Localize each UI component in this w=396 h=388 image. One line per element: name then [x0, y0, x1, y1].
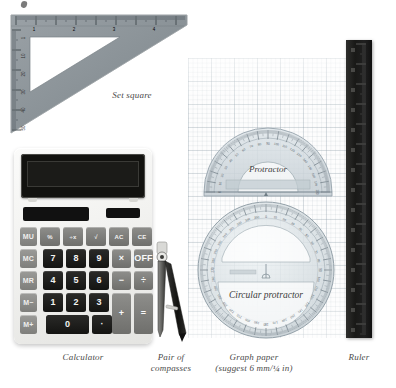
circular-protractor-degree-label: 0	[265, 215, 267, 219]
ruler-major-marker	[351, 48, 355, 52]
protractor-label: Protractor	[248, 164, 288, 174]
brand-badge	[106, 208, 140, 218]
calc-key-mu[interactable]: MU	[20, 227, 37, 246]
caption-graph-paper-line2: (suggest 6 mm/¼ in)	[215, 363, 292, 373]
keypad-row: M−123+=	[20, 293, 146, 312]
calc-key-[interactable]: ×	[112, 249, 131, 268]
calculator-display	[27, 161, 139, 187]
ruler-major-marker	[351, 148, 355, 152]
ruler-major-marker	[351, 128, 355, 132]
calc-key-7[interactable]: 7	[43, 249, 63, 268]
caption-set-square: Set square	[96, 90, 168, 101]
keypad-row: MU%÷x√ACCE	[20, 227, 146, 246]
protractor-semicircle: 0102030405060708090100110120130140150160…	[200, 122, 336, 198]
calc-key-8[interactable]: 8	[66, 249, 86, 268]
set-square-left-number: 10	[21, 53, 26, 59]
calc-key-9[interactable]: 9	[89, 249, 109, 268]
ruler-major-marker	[351, 68, 355, 72]
calculator-stand-right	[129, 198, 138, 202]
caption-calculator: Calculator	[43, 352, 123, 363]
ruler-major-marker	[351, 268, 355, 272]
ruler-major-marker	[351, 188, 355, 192]
solar-panel	[23, 207, 89, 221]
calculator-stand-left	[28, 198, 37, 202]
ruler-ticks	[346, 40, 372, 338]
calc-key-[interactable]: +	[112, 293, 131, 334]
calc-key-mc[interactable]: MC	[20, 249, 37, 268]
set-square-left-number: 40	[21, 107, 26, 113]
circular-protractor-degree-label: 90	[318, 268, 322, 272]
calc-key-[interactable]: √	[86, 227, 106, 246]
calc-key-2[interactable]: 2	[66, 293, 86, 312]
circular-protractor-label: Circular protractor	[229, 290, 303, 300]
ruler-major-marker	[351, 308, 355, 312]
calc-key-[interactable]: %	[40, 227, 60, 246]
calc-key-x[interactable]: ÷x	[63, 227, 83, 246]
calculator[interactable]: MU%÷x√ACCEMC789×OFFMR456−÷M−123+=M+0·	[14, 148, 152, 344]
calc-key-1[interactable]: 1	[43, 293, 63, 312]
plate-illustration-canvas: 1234 11020304050 Set square MU%÷x√ACCEMC…	[0, 0, 396, 388]
ruler-major-marker	[351, 328, 355, 332]
caption-compasses-line1: Pair of	[158, 352, 185, 362]
circular-protractor-degree-label: 180	[263, 322, 268, 326]
keypad-row: MC789×OFF	[20, 249, 146, 268]
ruler-major-marker	[351, 228, 355, 232]
calc-key-m[interactable]: M−	[20, 293, 37, 312]
circular-protractor-degree-label: 270	[211, 267, 215, 272]
pair-of-compasses	[146, 238, 196, 344]
calc-key-m[interactable]: M+	[20, 315, 37, 334]
caption-compasses-line2: compasses	[151, 363, 191, 373]
ruler-major-marker	[351, 208, 355, 212]
ruler-major-marker	[351, 88, 355, 92]
calc-key-[interactable]: −	[112, 271, 131, 290]
set-square: 1234 11020304050	[8, 12, 190, 136]
set-square-left-number: 50	[21, 125, 26, 131]
calc-key-0[interactable]: 0	[46, 315, 89, 334]
calculator-screen-housing	[21, 154, 145, 198]
protractor-circular: 0102030405060708090100110120130140150160…	[196, 200, 336, 340]
set-square-left-number: 30	[21, 89, 26, 95]
caption-ruler: Ruler	[330, 352, 388, 363]
calc-key-[interactable]: ·	[92, 315, 112, 334]
set-square-left-number: 20	[21, 71, 26, 77]
calc-key-ac[interactable]: AC	[109, 227, 129, 246]
caption-graph-paper: Graph paper (suggest 6 mm/¼ in)	[196, 352, 312, 374]
calc-key-mr[interactable]: MR	[20, 271, 37, 290]
caption-compasses: Pair of compasses	[138, 352, 204, 374]
ruler-major-marker	[351, 288, 355, 292]
caption-graph-paper-line1: Graph paper	[230, 352, 279, 362]
calc-key-6[interactable]: 6	[89, 271, 109, 290]
calc-key-5[interactable]: 5	[66, 271, 86, 290]
ruler-major-marker	[351, 168, 355, 172]
keypad-gap	[40, 315, 43, 334]
calc-key-3[interactable]: 3	[89, 293, 109, 312]
protractor-degree-label: 180	[315, 189, 319, 194]
calc-key-4[interactable]: 4	[43, 271, 63, 290]
ruler-major-marker	[351, 248, 355, 252]
ink-speck	[20, 0, 27, 8]
keypad-row: MR456−÷	[20, 271, 146, 290]
protractor-degree-label: 0	[218, 191, 222, 193]
ruler-major-marker	[351, 108, 355, 112]
calculator-keypad[interactable]: MU%÷x√ACCEMC789×OFFMR456−÷M−123+=M+0·	[20, 227, 146, 335]
protractor-degree-label: 90	[266, 142, 270, 146]
ruler	[346, 40, 372, 338]
